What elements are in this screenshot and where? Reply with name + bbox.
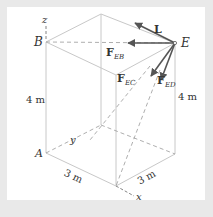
dim-bottom-right: 3 m bbox=[135, 168, 157, 187]
force-FEB-subscript: EB bbox=[113, 53, 124, 61]
point-E-label: E bbox=[180, 36, 190, 50]
dim-left-height: 4 m bbox=[26, 94, 46, 105]
axis-x-label: x bbox=[136, 191, 142, 202]
force-FEB-label: F bbox=[106, 46, 114, 59]
axis-z-label: z bbox=[41, 14, 48, 25]
force-FEC-subscript: EC bbox=[124, 79, 136, 87]
dim-right-height: 4 m bbox=[178, 91, 198, 102]
box-edges bbox=[46, 14, 175, 186]
box-diagram: z B E A y x 4 m 4 m 3 m 3 m L F EB F EC … bbox=[0, 0, 213, 217]
point-E-dot bbox=[173, 41, 176, 44]
force-L-label: L bbox=[154, 23, 162, 36]
axis-y-label: y bbox=[69, 134, 76, 145]
force-arrows bbox=[128, 23, 175, 80]
force-FEC-label: F bbox=[117, 72, 125, 85]
x-axis bbox=[116, 186, 134, 196]
force-FED-label: F bbox=[157, 74, 165, 87]
force-FED-subscript: ED bbox=[164, 81, 176, 89]
point-B-label: B bbox=[33, 35, 43, 49]
point-A-label: A bbox=[34, 147, 43, 160]
arrow-FEC bbox=[151, 43, 175, 76]
